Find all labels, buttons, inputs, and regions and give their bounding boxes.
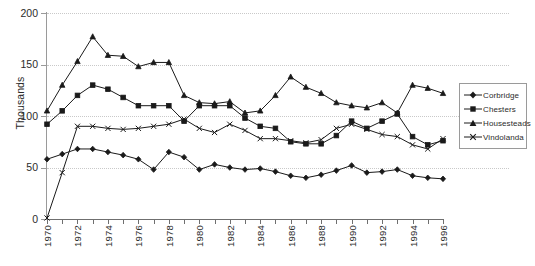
legend: Corbridge Chesters Housesteads Vindoland…: [459, 83, 527, 149]
x-marker-icon: [463, 131, 483, 143]
data-point: [410, 173, 415, 179]
data-point: [181, 93, 186, 98]
legend-label-vindolanda: Vindolanda: [483, 133, 524, 142]
legend-item-chesters[interactable]: Chesters: [463, 102, 523, 116]
data-point: [379, 100, 384, 105]
data-point: [121, 95, 126, 100]
data-point: [410, 82, 415, 87]
data-point: [75, 93, 80, 98]
data-point: [425, 143, 430, 148]
data-point: [380, 119, 385, 124]
data-point: [303, 175, 308, 181]
data-point: [90, 146, 95, 152]
data-point: [303, 84, 308, 89]
data-point: [90, 83, 95, 88]
series-housesteads: [44, 34, 445, 115]
data-point: [45, 122, 50, 127]
square-marker-icon: [463, 103, 483, 115]
data-point: [44, 108, 49, 113]
data-point: [227, 122, 232, 127]
data-point: [440, 176, 445, 182]
series-layer: [0, 0, 535, 266]
data-point: [167, 103, 172, 108]
data-point: [273, 126, 278, 131]
legend-item-corbridge[interactable]: Corbridge: [463, 88, 523, 102]
data-point: [319, 142, 324, 147]
data-point: [227, 165, 232, 171]
series-line: [47, 37, 443, 113]
data-point: [334, 133, 339, 138]
data-point: [425, 175, 430, 181]
data-point: [136, 103, 141, 108]
data-point: [121, 152, 126, 158]
data-point: [334, 100, 339, 105]
series-corbridge: [44, 146, 445, 181]
legend-item-vindolanda[interactable]: Vindolanda: [463, 130, 523, 144]
data-point: [60, 109, 65, 114]
legend-label-housesteads: Housesteads: [483, 119, 531, 128]
data-point: [242, 167, 247, 173]
data-point: [410, 134, 415, 139]
data-point: [75, 146, 80, 152]
data-point: [243, 116, 248, 121]
data-point: [60, 151, 65, 157]
data-point: [319, 172, 324, 178]
legend-item-housesteads[interactable]: Housesteads: [463, 116, 523, 130]
data-point: [136, 156, 141, 162]
data-point: [258, 166, 263, 172]
data-point: [242, 128, 247, 133]
diamond-marker-icon: [463, 89, 483, 101]
triangle-marker-icon: [463, 117, 483, 129]
data-point: [60, 170, 65, 175]
data-point: [44, 215, 49, 220]
data-point: [106, 87, 111, 92]
data-point: [105, 149, 110, 155]
data-point: [395, 167, 400, 173]
line-chart: Thousands 200 150 100 50 0 1970197219741…: [0, 0, 535, 266]
data-point: [273, 169, 278, 175]
data-point: [288, 173, 293, 179]
legend-label-chesters: Chesters: [483, 105, 516, 114]
data-point: [44, 156, 49, 162]
data-point: [334, 168, 339, 174]
data-point: [212, 162, 217, 168]
data-point: [379, 169, 384, 175]
data-point: [258, 124, 263, 129]
data-point: [90, 34, 95, 39]
data-point: [151, 103, 156, 108]
data-point: [349, 163, 354, 169]
data-point: [364, 170, 369, 176]
data-point: [227, 99, 232, 104]
data-point: [288, 74, 293, 79]
legend-label-corbridge: Corbridge: [483, 91, 519, 100]
